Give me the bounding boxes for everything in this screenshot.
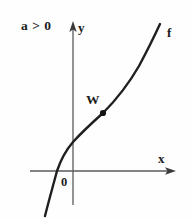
- inflection-point-marker: [100, 110, 106, 116]
- x-axis-label: x: [158, 152, 165, 165]
- curve-label-f: f: [167, 26, 171, 39]
- origin-label: 0: [61, 176, 67, 189]
- function-graph-figure: a > 0 y x f W 0: [0, 0, 193, 219]
- y-axis-label: y: [78, 21, 85, 34]
- condition-label: a > 0: [21, 19, 51, 33]
- inflection-point-label-w: W: [86, 93, 100, 107]
